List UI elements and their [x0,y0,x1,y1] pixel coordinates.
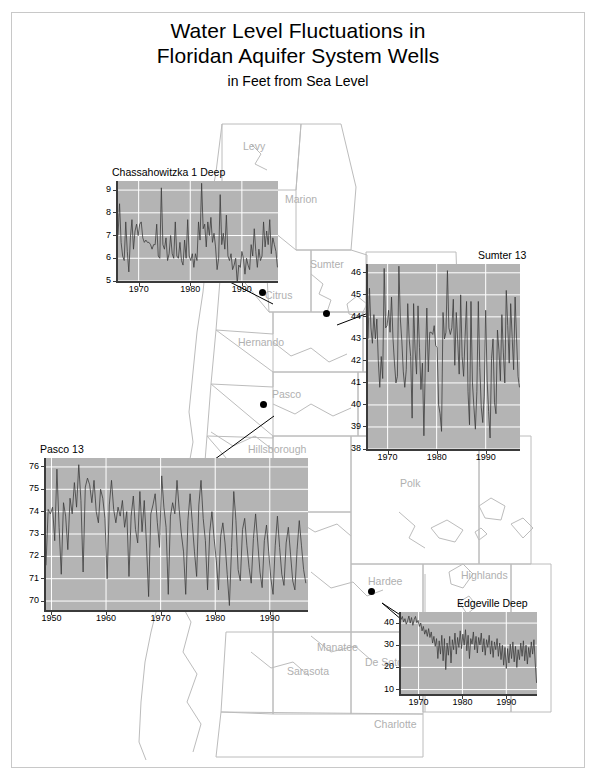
leader-lines [11,12,585,768]
florida-county-map: LevyMarionSumterCitrusHernandoPascoHills… [11,12,585,768]
